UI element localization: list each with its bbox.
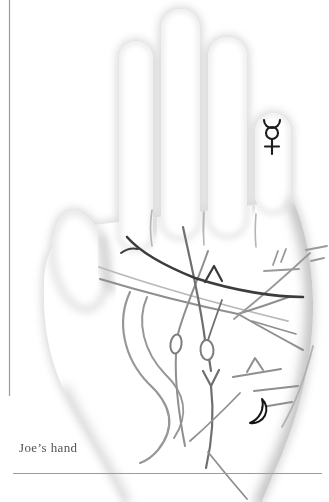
book-page: Joe’s hand [0,0,329,502]
hand-illustration [0,0,329,502]
caption: Joe’s hand [19,440,78,456]
island-fate [200,340,214,361]
